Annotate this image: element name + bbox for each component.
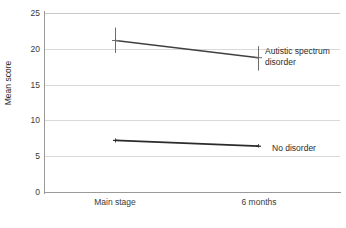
x-axis-line <box>44 192 341 193</box>
line-chart: 25 20 15 10 5 0 Mean score Main stage 6 … <box>0 0 346 228</box>
y-tick-5: 5 <box>6 152 40 161</box>
y-tick-0: 0 <box>6 188 40 197</box>
gridline-25 <box>44 13 340 14</box>
y-tick-10: 10 <box>6 116 40 125</box>
gridline-5 <box>44 156 340 157</box>
gridline-10 <box>44 120 340 121</box>
y-tick-labels: 25 20 15 10 5 0 <box>0 0 40 228</box>
gridline-15 <box>44 85 340 86</box>
series-label-asd-line1: Autistic spectrum <box>265 46 330 57</box>
series-label-asd-line2: disorder <box>265 57 330 68</box>
y-axis-line <box>44 11 45 194</box>
series-label-no-disorder: No disorder <box>272 143 316 154</box>
plot-area <box>44 13 340 192</box>
y-tick-25: 25 <box>6 9 40 18</box>
x-tick-6-months: 6 months <box>229 198 289 207</box>
y-axis-title: Mean score <box>3 53 13 113</box>
series-label-autistic-spectrum-disorder: Autistic spectrum disorder <box>265 46 330 67</box>
x-tick-main-stage: Main stage <box>85 198 145 207</box>
